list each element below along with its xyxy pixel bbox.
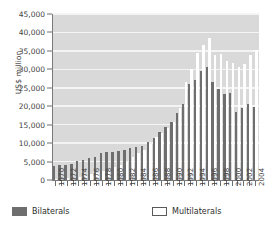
legend-item-bilaterals: Bilaterals (12, 207, 69, 216)
bar-multilaterals (220, 54, 222, 180)
y-tick-label: 35,000 (19, 46, 45, 55)
bar-multilaterals (232, 63, 234, 180)
bar-multilaterals (196, 53, 198, 180)
bar-multilaterals (190, 69, 192, 180)
y-axis-labels: 05,00010,00015,00020,00025,00030,00035,0… (0, 0, 52, 200)
x-tick-label: 1980 (117, 168, 125, 186)
bar-chart: US$ million 05,00010,00015,00020,00025,0… (0, 0, 274, 225)
y-tick-label: 25,000 (19, 83, 45, 92)
legend-swatch-bilaterals (12, 207, 27, 216)
bar-multilaterals (67, 178, 69, 180)
legend-label-bilaterals: Bilaterals (32, 207, 69, 216)
x-tick-label: 1998 (223, 168, 231, 186)
bar-multilaterals (249, 55, 251, 180)
y-tick-label: 0 (40, 176, 45, 185)
bar-bilaterals (206, 67, 208, 180)
bar-multilaterals (185, 82, 187, 180)
x-tick-label: 1996 (211, 168, 219, 186)
x-tick-label: 1974 (81, 168, 89, 186)
legend-label-multilaterals: Multilaterals (172, 207, 221, 216)
x-tick-label: 1990 (176, 168, 184, 186)
bar-multilaterals (238, 67, 240, 180)
bar-multilaterals (255, 50, 257, 180)
y-tick-label: 45,000 (19, 10, 45, 19)
bar-group (253, 14, 259, 180)
bar-multilaterals (202, 45, 204, 180)
x-tick-label: 1976 (93, 168, 101, 186)
bar-multilaterals (214, 55, 216, 180)
bar-bilaterals (217, 89, 219, 180)
x-tick-label: 1986 (152, 168, 160, 186)
bar-multilaterals (208, 38, 210, 180)
x-tick-label: 1984 (140, 168, 148, 186)
legend-item-multilaterals: Multilaterals (152, 207, 221, 216)
y-tick-label: 5,000 (24, 157, 45, 166)
x-tick-label: 1970 (58, 168, 66, 186)
x-tick-label: 2002 (246, 168, 254, 186)
bar-bilaterals (194, 80, 196, 180)
x-tick-label: 1972 (70, 168, 78, 186)
bar-multilaterals (126, 162, 128, 180)
x-tick-label: 2000 (235, 168, 243, 186)
bar-bilaterals (200, 71, 202, 180)
x-tick-label: 1994 (199, 168, 207, 186)
y-tick-label: 20,000 (19, 102, 45, 111)
bar-multilaterals (243, 64, 245, 180)
x-tick-label: 1992 (187, 168, 195, 186)
bar-multilaterals (173, 122, 175, 180)
bar-bilaterals (211, 82, 213, 180)
x-tick-label: 1988 (164, 168, 172, 186)
chart-legend: Bilaterals Multilaterals (0, 207, 274, 223)
legend-swatch-multilaterals (152, 207, 167, 216)
bar-bilaterals (53, 166, 55, 180)
y-tick-label: 40,000 (19, 28, 45, 37)
y-tick-label: 15,000 (19, 120, 45, 129)
y-tick-label: 30,000 (19, 65, 45, 74)
bars-layer (52, 14, 258, 180)
y-tick-label: 10,000 (19, 139, 45, 148)
bar-multilaterals (226, 61, 228, 180)
bar-bilaterals (188, 84, 190, 180)
x-tick-label: 1982 (129, 168, 137, 186)
x-tick-label: 2004 (258, 168, 266, 186)
bar-multilaterals (114, 167, 116, 180)
x-tick-label: 1978 (105, 168, 113, 186)
